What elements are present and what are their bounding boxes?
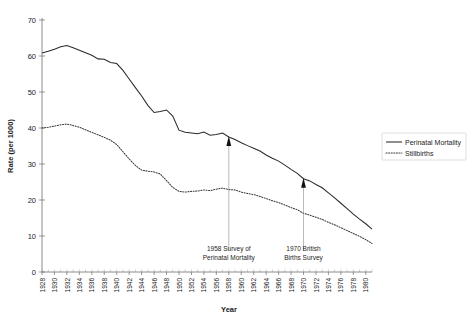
chart-plot-area: 010203040506070Rate (per 1000)1928193019… — [0, 0, 467, 318]
y-tick-label: 20 — [28, 196, 36, 205]
x-tick-label: 1958 — [225, 278, 232, 293]
chart-figure: 010203040506070Rate (per 1000)1928193019… — [0, 0, 467, 318]
x-tick-label: 1956 — [213, 278, 220, 293]
annotation-label-perinatal-mortality-survey: 1958 Survey of — [207, 245, 251, 253]
y-tick-label: 30 — [28, 160, 36, 169]
x-tick-label: 1928 — [39, 278, 46, 293]
series-line-perinatal-mortality — [42, 46, 372, 230]
legend-label-0: Perinatal Mortality — [405, 139, 462, 147]
x-tick-label: 1938 — [101, 278, 108, 293]
x-tick-label: 1966 — [275, 278, 282, 293]
y-tick-label: 40 — [28, 124, 36, 133]
y-tick-label: 60 — [28, 52, 36, 61]
x-tick-label: 1936 — [88, 278, 95, 293]
x-tick-label: 1950 — [176, 278, 183, 293]
x-tick-label: 1964 — [263, 278, 270, 293]
x-tick-label: 1932 — [64, 278, 71, 293]
x-tick-label: 1972 — [313, 278, 320, 293]
x-tick-label: 1946 — [151, 278, 158, 293]
annotation-label-perinatal-mortality-survey: Perinatal Mortality — [203, 254, 256, 262]
legend-label-1: Stillbirths — [405, 150, 434, 157]
x-tick-label: 1948 — [163, 278, 170, 293]
x-tick-label: 1960 — [238, 278, 245, 293]
series-line-stillbirths — [42, 124, 372, 244]
x-tick-label: 1940 — [113, 278, 120, 293]
x-tick-label: 1970 — [300, 278, 307, 293]
y-tick-label: 70 — [28, 16, 36, 25]
x-tick-label: 1962 — [250, 278, 257, 293]
x-tick-label: 1954 — [200, 278, 207, 293]
x-tick-label: 1930 — [51, 278, 58, 293]
x-tick-label: 1980 — [362, 278, 369, 293]
x-tick-label: 1942 — [126, 278, 133, 293]
y-tick-label: 10 — [28, 232, 36, 241]
x-tick-label: 1974 — [325, 278, 332, 293]
y-tick-label: 50 — [28, 88, 36, 97]
annotation-label-british-births-survey: 1970 British — [286, 245, 321, 252]
x-tick-label: 1952 — [188, 278, 195, 293]
y-tick-label: 0 — [32, 268, 36, 277]
x-tick-label: 1968 — [288, 278, 295, 293]
x-axis-title: Year — [221, 305, 237, 314]
y-axis-title: Rate (per 1000) — [6, 119, 15, 173]
annotation-label-british-births-survey: Births Survey — [284, 254, 323, 262]
x-tick-label: 1934 — [76, 278, 83, 293]
x-tick-label: 1944 — [138, 278, 145, 293]
x-tick-label: 1978 — [350, 278, 357, 293]
x-tick-label: 1976 — [337, 278, 344, 293]
